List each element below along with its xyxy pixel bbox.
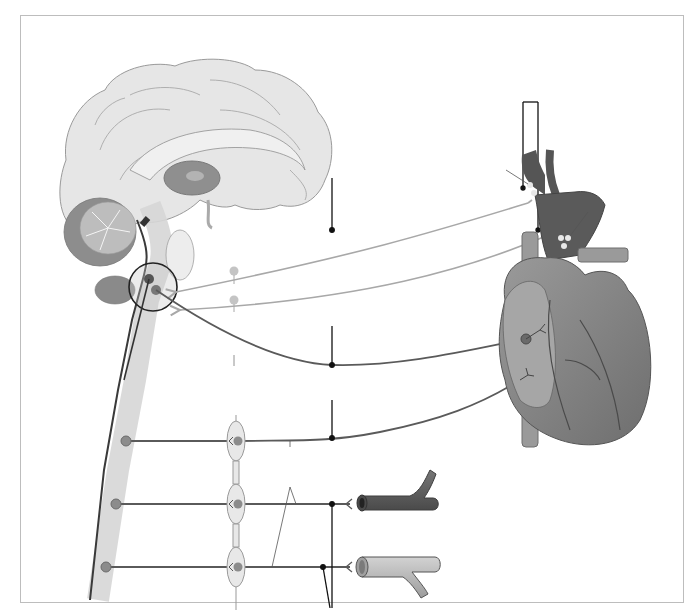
heart-illustration — [499, 150, 651, 447]
sympathetic-chain — [227, 415, 245, 610]
blood-vessel-constricted — [357, 470, 438, 511]
brain-illustration — [60, 59, 332, 600]
diagram-artwork — [0, 0, 699, 614]
blood-vessel-dilated — [356, 557, 440, 598]
